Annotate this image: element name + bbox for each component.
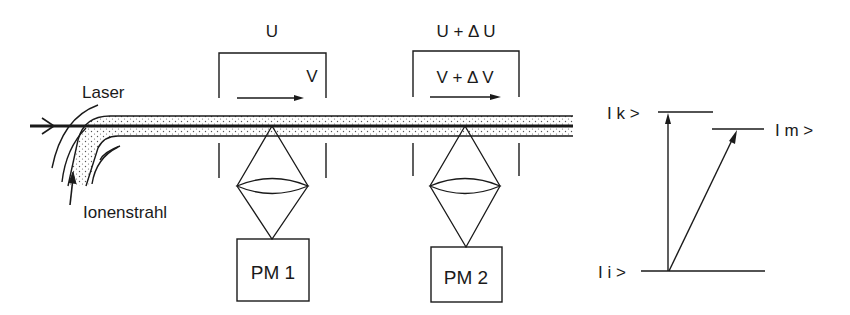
collection-optics-2 xyxy=(430,126,500,247)
collection-optics-1 xyxy=(237,126,308,239)
photomultiplier-2: PM 2 xyxy=(431,247,502,302)
level-m-label: I m > xyxy=(775,121,813,140)
lens-1-icon xyxy=(237,179,308,194)
collinear-laser-spectroscopy-diagram: U V PM 1 U + Δ U V + Δ V PM 2 Laser xyxy=(0,0,850,315)
drift-region-1: U V xyxy=(219,22,326,178)
voltage-label-1: U xyxy=(266,22,278,41)
pm2-label: PM 2 xyxy=(444,267,488,288)
level-i-label: I i > xyxy=(598,263,626,282)
diagram-canvas: U V PM 1 U + Δ U V + Δ V PM 2 Laser xyxy=(0,0,850,315)
voltage-label-2: U + Δ U xyxy=(436,22,495,41)
lens-2-icon xyxy=(430,179,500,194)
drift-region-2: U + Δ U V + Δ V xyxy=(413,22,519,176)
laser-label: Laser xyxy=(82,83,125,102)
arrow-diagonal-icon xyxy=(729,130,737,144)
energy-level-scheme: I k > I m > I i > xyxy=(598,104,813,282)
level-k-label: I k > xyxy=(607,104,640,123)
ion-beam-label: Ionenstrahl xyxy=(83,203,167,222)
photomultiplier-1: PM 1 xyxy=(237,239,309,301)
velocity-label-2: V + Δ V xyxy=(436,68,494,87)
velocity-label-1: V xyxy=(306,67,318,86)
arrow-up-icon xyxy=(665,113,671,124)
pm1-label: PM 1 xyxy=(251,262,295,283)
